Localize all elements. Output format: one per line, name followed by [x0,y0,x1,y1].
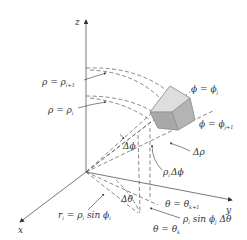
label-rho-delta-phi: ρiΔϕ [152,145,184,178]
svg-text:ri = ρi sin ϕi: ri = ρi sin ϕi [58,210,111,221]
label-delta-theta: Δθ [120,194,133,204]
volume-element [150,86,195,130]
svg-text:ρi sin ϕj Δθ: ρi sin ϕj Δθ [182,214,232,226]
z-axis-label: z [74,17,80,27]
label-theta-k1: θ = θk+1 [165,199,200,210]
label-radius: ri = ρi sin ϕi [58,194,111,221]
svg-text:ρ = ρi+1: ρ = ρi+1 [41,77,75,88]
x-axis-label: x [18,225,23,235]
svg-text:Δρ: Δρ [192,147,205,157]
svg-text:ϕ = ϕj+1: ϕ = ϕj+1 [199,119,233,131]
svg-text:Δθ: Δθ [120,194,133,204]
svg-text:θ = θk+1: θ = θk+1 [165,199,200,210]
svg-text:θ = θk: θ = θk [153,224,180,235]
svg-text:ρiΔϕ: ρiΔϕ [162,167,184,178]
label-phi-j1: ϕ = ϕj+1 [199,119,233,131]
label-delta-rho: Δρ [170,143,205,157]
svg-text:ρ = ρi: ρ = ρi [47,105,74,116]
y-axis [86,172,232,200]
label-theta-k: θ = θk [153,224,180,235]
label-phi-j: ϕ = ϕj [191,84,219,96]
svg-text:ϕ = ϕj: ϕ = ϕj [191,84,219,96]
label-rho-outer: ρ = ρi+1 [41,73,106,88]
spherical-volume-element-diagram: z x y ρ = ρi+1 ρ = ρi [0,0,247,240]
label-rho-inner: ρ = ρi [47,102,106,116]
svg-text:Δϕ: Δϕ [122,141,136,151]
label-delta-phi: Δϕ [120,134,136,151]
phi-rays [86,92,215,172]
